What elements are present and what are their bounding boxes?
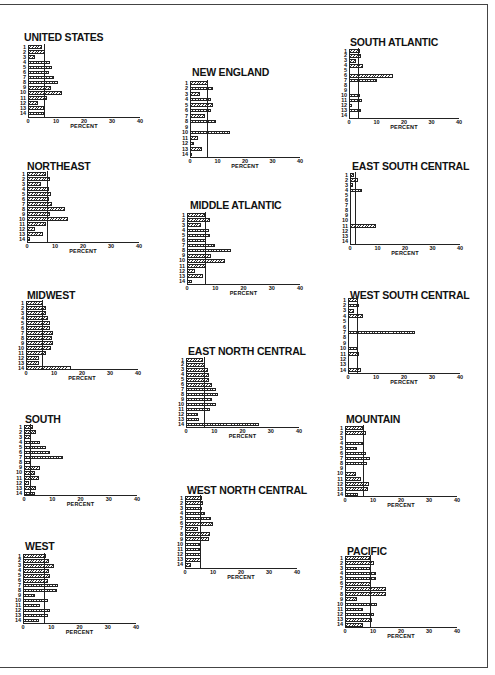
- bar: [349, 79, 377, 83]
- bar: [186, 363, 205, 367]
- bar: [28, 106, 44, 110]
- bar: [26, 366, 71, 370]
- bar: [345, 618, 372, 622]
- x-tick-label: 10: [214, 158, 220, 164]
- bar: [26, 341, 53, 345]
- x-tick-label: 0: [188, 158, 191, 164]
- bar: [345, 482, 369, 486]
- x-axis-label: PERCENT: [390, 124, 418, 130]
- bar: [345, 556, 370, 560]
- bar: [185, 558, 201, 562]
- bar: [187, 244, 215, 248]
- bar: [190, 81, 208, 85]
- bar: [28, 101, 38, 105]
- bar: [186, 358, 203, 362]
- bar: [349, 59, 356, 63]
- bar: [26, 301, 43, 305]
- bar: [23, 594, 35, 598]
- bar: [187, 218, 210, 222]
- bar: [348, 368, 361, 372]
- bar: [23, 609, 50, 613]
- row-label: 14: [13, 237, 25, 242]
- x-tick-label: 30: [426, 628, 432, 634]
- bar: [27, 232, 43, 236]
- x-axis-label: PERCENT: [69, 248, 97, 254]
- bar: [345, 597, 357, 601]
- reference-line: [42, 300, 43, 369]
- bar: [186, 388, 216, 392]
- row-label: 14: [331, 622, 343, 627]
- row-label: 14: [10, 491, 22, 496]
- bar: [345, 572, 376, 576]
- chart-title: WEST: [25, 540, 55, 552]
- chart-title: SOUTH ATLANTIC: [350, 36, 438, 48]
- x-tick-label: 40: [457, 245, 463, 251]
- bar: [190, 131, 230, 135]
- bar: [190, 120, 216, 124]
- bar: [185, 563, 191, 567]
- row-label: 14: [334, 368, 346, 373]
- bar: [185, 517, 211, 521]
- row-label: 14: [176, 152, 188, 157]
- x-tick-label: 40: [136, 243, 142, 249]
- reference-line: [47, 171, 48, 242]
- chart-title: MIDDLE ATLANTIC: [190, 199, 282, 211]
- x-axis-label: PERCENT: [67, 501, 95, 507]
- row-label: 14: [14, 111, 26, 116]
- x-tick-label: 30: [107, 370, 113, 376]
- chart-title: WEST NORTH CENTRAL: [187, 484, 307, 496]
- x-tick-label: 0: [21, 624, 24, 630]
- bar: [187, 254, 211, 258]
- row-label: 14: [173, 279, 185, 284]
- x-tick-label: 30: [269, 285, 275, 291]
- bar: [26, 321, 50, 325]
- bar: [345, 426, 363, 430]
- x-tick-label: 40: [296, 428, 302, 434]
- bar: [350, 178, 358, 182]
- bar: [185, 527, 198, 531]
- bar: [28, 61, 50, 65]
- bar: [27, 182, 41, 186]
- bar: [350, 224, 376, 228]
- bar: [187, 223, 201, 227]
- x-tick-label: 0: [183, 569, 186, 575]
- x-tick-label: 10: [370, 497, 376, 503]
- bar: [186, 398, 212, 402]
- bar: [345, 623, 363, 627]
- x-tick-label: 30: [426, 497, 432, 503]
- x-axis-label: PERCENT: [68, 375, 96, 381]
- bar: [187, 249, 231, 253]
- x-tick-label: 30: [428, 119, 434, 125]
- bar: [186, 423, 259, 427]
- bar: [187, 280, 192, 284]
- x-tick-label: 0: [348, 245, 351, 251]
- bar: [26, 306, 46, 310]
- bar: [28, 112, 44, 116]
- bar: [345, 477, 361, 481]
- bar: [186, 403, 216, 407]
- bar: [185, 548, 200, 552]
- bar: [345, 567, 370, 571]
- bar: [345, 577, 376, 581]
- reference-line: [370, 555, 371, 627]
- bar: [345, 592, 386, 596]
- bar: [23, 554, 46, 558]
- chart-title: PACIFIC: [347, 545, 387, 557]
- x-axis-label: PERCENT: [229, 433, 257, 439]
- bar: [23, 574, 50, 578]
- bar: [186, 393, 218, 397]
- bar: [186, 383, 212, 387]
- bar: [190, 153, 192, 157]
- bar: [24, 441, 40, 445]
- bar: [345, 493, 358, 497]
- x-tick-label: 30: [105, 624, 111, 630]
- x-axis-label: PERCENT: [227, 574, 255, 580]
- x-tick-label: 10: [374, 245, 380, 251]
- bar: [26, 326, 50, 330]
- bar: [187, 264, 206, 268]
- bar: [349, 99, 362, 103]
- x-tick-label: 30: [269, 158, 275, 164]
- reference-line: [44, 553, 45, 623]
- bar: [349, 64, 363, 68]
- x-tick-label: 30: [268, 428, 274, 434]
